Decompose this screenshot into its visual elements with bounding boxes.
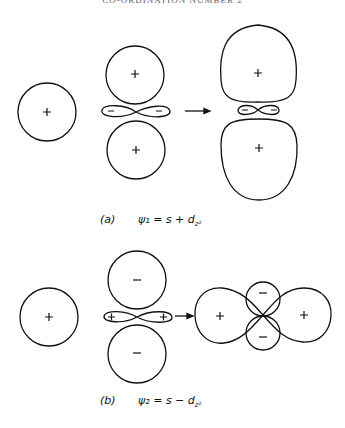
caption-a-label: (a) xyxy=(100,213,115,226)
panel-b-hybrid-orbital xyxy=(195,282,331,350)
equation-b-subscript: z² xyxy=(195,401,201,409)
caption-b-equation: ψ₂ = s − dz² xyxy=(138,394,201,409)
panel-a-dz2-orbital xyxy=(102,46,170,179)
panel-a-hybrid-orbital xyxy=(221,25,297,200)
caption-a: (a) ψ₁ = s + dz² xyxy=(100,213,115,226)
equation-b-text: ψ₂ = s − d xyxy=(138,394,195,407)
panel-b-arrow xyxy=(175,314,193,319)
panel-a-signs xyxy=(43,69,277,154)
equation-a-subscript: z² xyxy=(195,220,201,228)
caption-b-label: (b) xyxy=(100,394,116,407)
caption-a-equation: ψ₁ = s + dz² xyxy=(138,213,201,228)
caption-b: (b) ψ₂ = s − dz² xyxy=(100,394,116,407)
equation-a-text: ψ₁ = s + d xyxy=(138,213,195,226)
panel-a-arrow xyxy=(185,109,210,114)
